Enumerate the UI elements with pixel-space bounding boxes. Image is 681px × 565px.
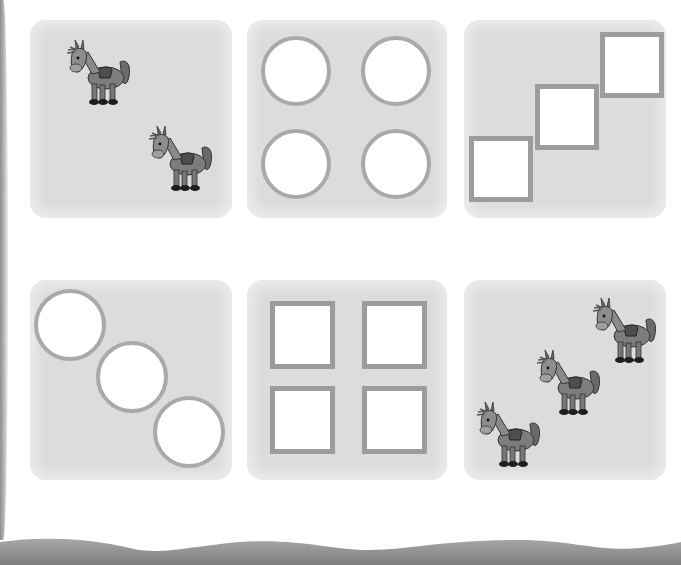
square-shape — [362, 301, 427, 369]
panel-squares-4 — [247, 280, 447, 480]
circle-shape — [34, 289, 106, 361]
circle-shape — [261, 129, 331, 199]
circle-shape — [361, 36, 431, 106]
donkey-icon — [144, 126, 216, 196]
square-shape — [270, 301, 335, 369]
circle-shape — [261, 36, 331, 106]
panel-donkeys-3 — [464, 280, 666, 480]
square-shape — [535, 84, 599, 150]
square-shape — [362, 386, 427, 454]
circle-shape — [153, 396, 225, 468]
square-shape — [600, 32, 664, 98]
panel-donkeys-2 — [30, 20, 232, 218]
page-edge-shadow — [0, 0, 8, 540]
panel-circles-3 — [30, 280, 232, 480]
square-shape — [469, 136, 533, 202]
donkey-icon — [472, 402, 544, 472]
circle-shape — [96, 341, 168, 413]
panel-circles-4 — [247, 20, 447, 218]
circle-shape — [361, 129, 431, 199]
donkey-icon — [62, 40, 134, 110]
panel-squares-3 — [464, 20, 666, 218]
square-shape — [270, 386, 335, 454]
torn-page-bottom-edge — [0, 520, 681, 565]
